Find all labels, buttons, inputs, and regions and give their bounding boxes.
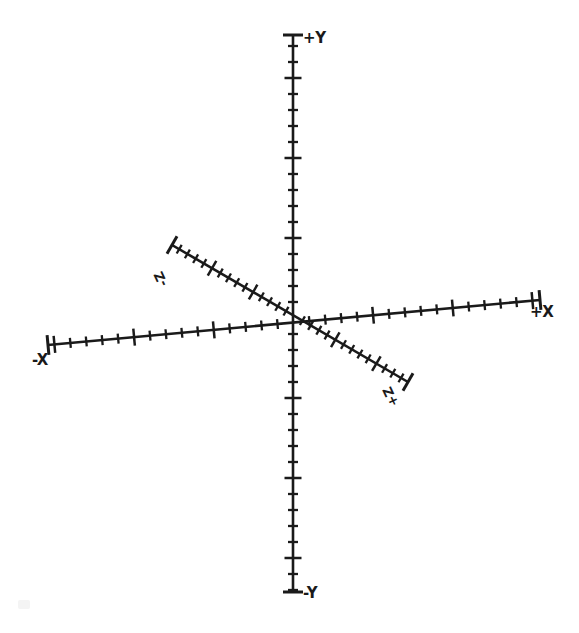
axis-tick [468, 302, 469, 312]
axis-tick [404, 307, 405, 317]
axis-tick [452, 300, 454, 317]
axis-tick [500, 299, 501, 309]
axis-tick [372, 356, 381, 371]
axis-tick [229, 323, 230, 333]
axis-tick [420, 306, 421, 316]
axis-tick [325, 315, 326, 325]
label-x-negative: -X [32, 351, 49, 369]
axis-tick [261, 320, 262, 330]
axis-tick [181, 328, 182, 338]
axis-tick [516, 297, 517, 307]
label-z-positive: +Z [380, 384, 402, 409]
figure-canvas: +Y-Y+X-X-Z+Z [0, 0, 579, 633]
axis-tick [277, 319, 278, 329]
axis-tick [331, 332, 340, 347]
axis-tick [341, 313, 342, 323]
axis-tick [389, 309, 390, 319]
axis-tick [54, 336, 56, 353]
coordinate-axes-figure: +Y-Y+X-X-Z+Z [0, 0, 579, 633]
axis-tick [357, 312, 358, 322]
axis-tick [197, 326, 198, 336]
axis-y [283, 35, 303, 592]
axis-tick [150, 331, 151, 341]
axis-tick [102, 335, 103, 345]
axis-tick [118, 334, 119, 344]
axis-tick [249, 285, 258, 300]
axis-tick [213, 321, 215, 338]
axis-endcap [403, 373, 413, 390]
axis-tick [165, 329, 166, 339]
axis-tick [245, 322, 246, 332]
axis-tick [70, 338, 71, 348]
axis-endcap [167, 236, 177, 253]
axis-tick [86, 337, 87, 347]
label-y-positive: +Y [303, 29, 327, 47]
label-y-negative: -Y [303, 584, 319, 602]
axis-tick [484, 300, 485, 310]
axis-z [167, 236, 413, 390]
axis-tick [372, 307, 374, 324]
axis-tick [208, 261, 217, 276]
axis-tick [133, 329, 135, 346]
label-x-positive: +X [530, 303, 554, 321]
axis-tick [436, 304, 437, 314]
scan-artifact [18, 600, 30, 609]
label-z-negative: -Z [151, 269, 171, 289]
